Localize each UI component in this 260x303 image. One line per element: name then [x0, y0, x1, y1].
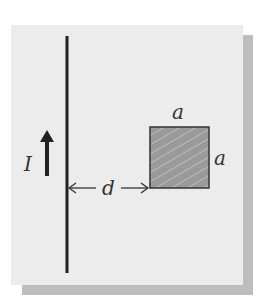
- square-loop: [150, 127, 209, 188]
- distance-label: d: [102, 178, 115, 198]
- side-top-label: a: [172, 102, 184, 122]
- current-label: I: [24, 154, 32, 174]
- side-right-label: a: [214, 148, 226, 168]
- current-arrow-icon: [40, 130, 54, 176]
